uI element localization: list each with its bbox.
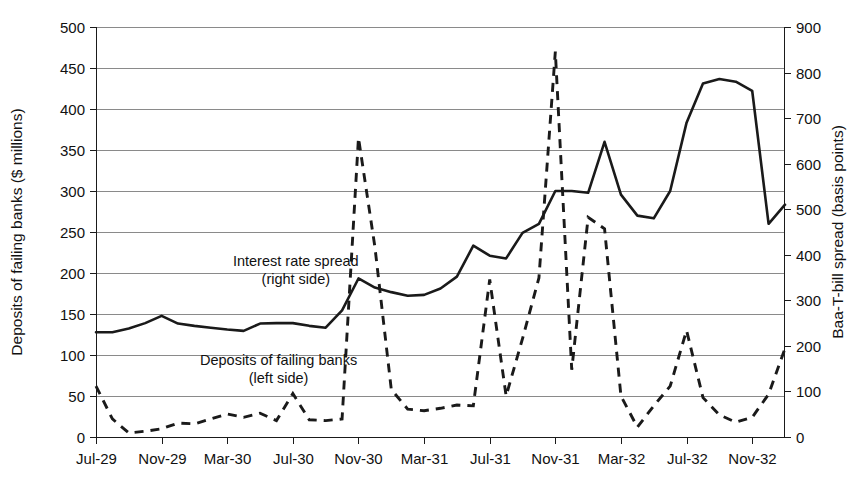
x-tick-label: Jul-29 (76, 450, 117, 467)
x-tick-label: Jul-31 (470, 450, 511, 467)
series-line-dashed (96, 52, 785, 433)
right-tick-label: 300 (796, 292, 821, 309)
x-tick-label: Nov-32 (728, 450, 776, 467)
right-axis-title: Baa-T-bill spread (basis points) (829, 125, 846, 339)
left-tick-label: 300 (60, 183, 85, 200)
x-tick-label: Jul-30 (273, 450, 314, 467)
series-line-solid (96, 79, 785, 332)
x-tick-label: Mar-32 (598, 450, 646, 467)
x-tick-label: Mar-30 (204, 450, 252, 467)
deposits-annotation-line1: Deposits of failing banks (200, 352, 357, 368)
deposits-annotation-line2: (left side) (249, 370, 309, 386)
left-tick-label: 100 (60, 347, 85, 364)
x-tick-label: Jul-32 (667, 450, 708, 467)
right-tick-label: 200 (796, 338, 821, 355)
interest-rate-spread-annotation-line1: Interest rate spread (233, 253, 359, 269)
left-tick-label: 350 (60, 142, 85, 159)
left-tick-label: 150 (60, 306, 85, 323)
dual-axis-line-chart: 050100150200250300350400450500 010020030… (0, 0, 860, 489)
right-tick-label: 400 (796, 247, 821, 264)
right-tick-label: 0 (796, 429, 804, 446)
left-tick-label: 500 (60, 19, 85, 36)
left-tick-label: 200 (60, 265, 85, 282)
chart-figure: 050100150200250300350400450500 010020030… (0, 0, 860, 489)
right-tick-label: 100 (796, 383, 821, 400)
x-tick-label: Nov-30 (334, 450, 382, 467)
right-axis-ticks: 0100200300400500600700800900 (785, 19, 821, 446)
x-tick-label: Nov-31 (531, 450, 579, 467)
gridlines (96, 28, 785, 397)
left-axis-ticks: 050100150200250300350400450500 (60, 19, 96, 446)
left-tick-label: 0 (77, 429, 85, 446)
right-tick-label: 900 (796, 19, 821, 36)
right-tick-label: 700 (796, 110, 821, 127)
x-tick-label: Mar-31 (401, 450, 449, 467)
left-axis-title: Deposits of failing banks ($ millions) (8, 108, 25, 355)
x-tick-label: Nov-29 (138, 450, 186, 467)
left-tick-label: 50 (68, 388, 85, 405)
left-tick-label: 400 (60, 101, 85, 118)
right-tick-label: 500 (796, 201, 821, 218)
right-tick-label: 600 (796, 156, 821, 173)
x-axis-ticks: Jul-29Nov-29Mar-30Jul-30Nov-30Mar-31Jul-… (76, 437, 777, 467)
left-tick-label: 450 (60, 60, 85, 77)
left-tick-label: 250 (60, 224, 85, 241)
series-group (96, 52, 785, 433)
right-tick-label: 800 (796, 65, 821, 82)
interest-rate-spread-annotation-line2: (right side) (262, 271, 331, 287)
